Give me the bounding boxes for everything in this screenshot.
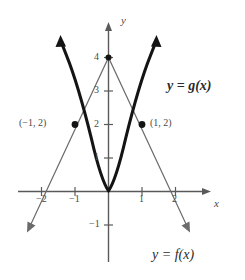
y-tick-label-3: 3	[94, 85, 99, 95]
function-label-g: y = g(x)	[167, 79, 212, 93]
point-marker-0-4	[106, 55, 112, 61]
point-label-1-2: (1, 2)	[150, 118, 172, 128]
y-tick-label-4: 4	[94, 52, 99, 62]
x-tick-label-neg2: −2	[36, 194, 47, 204]
x-tick-label-pos2: 2	[172, 194, 177, 204]
point-marker-1-2	[139, 121, 146, 128]
x-axis-label: x	[214, 198, 219, 209]
x-tick-label-pos1: 1	[139, 194, 144, 204]
coordinate-plane-svg	[0, 0, 245, 280]
y-axis-arrowhead	[105, 22, 112, 31]
function-label-f: y = f(x)	[152, 248, 194, 262]
y-axis-label: y	[121, 15, 126, 26]
point-marker-neg1-2	[72, 121, 79, 128]
y-tick-label-neg1: −1	[89, 219, 100, 229]
point-label-neg1-2: (−1, 2)	[19, 118, 46, 128]
graph-figure: y x −2 −1 1 2 4 3 2 1 −1 (−1, 2) (1, 2) …	[0, 0, 245, 280]
y-tick-label-1: 1	[94, 152, 99, 162]
y-tick-label-2: 2	[94, 119, 99, 129]
x-axis-arrowhead	[202, 188, 211, 195]
function-g-right-arrowhead	[151, 35, 162, 47]
x-tick-label-neg1: −1	[69, 194, 80, 204]
function-g-left-arrowhead	[56, 35, 67, 47]
